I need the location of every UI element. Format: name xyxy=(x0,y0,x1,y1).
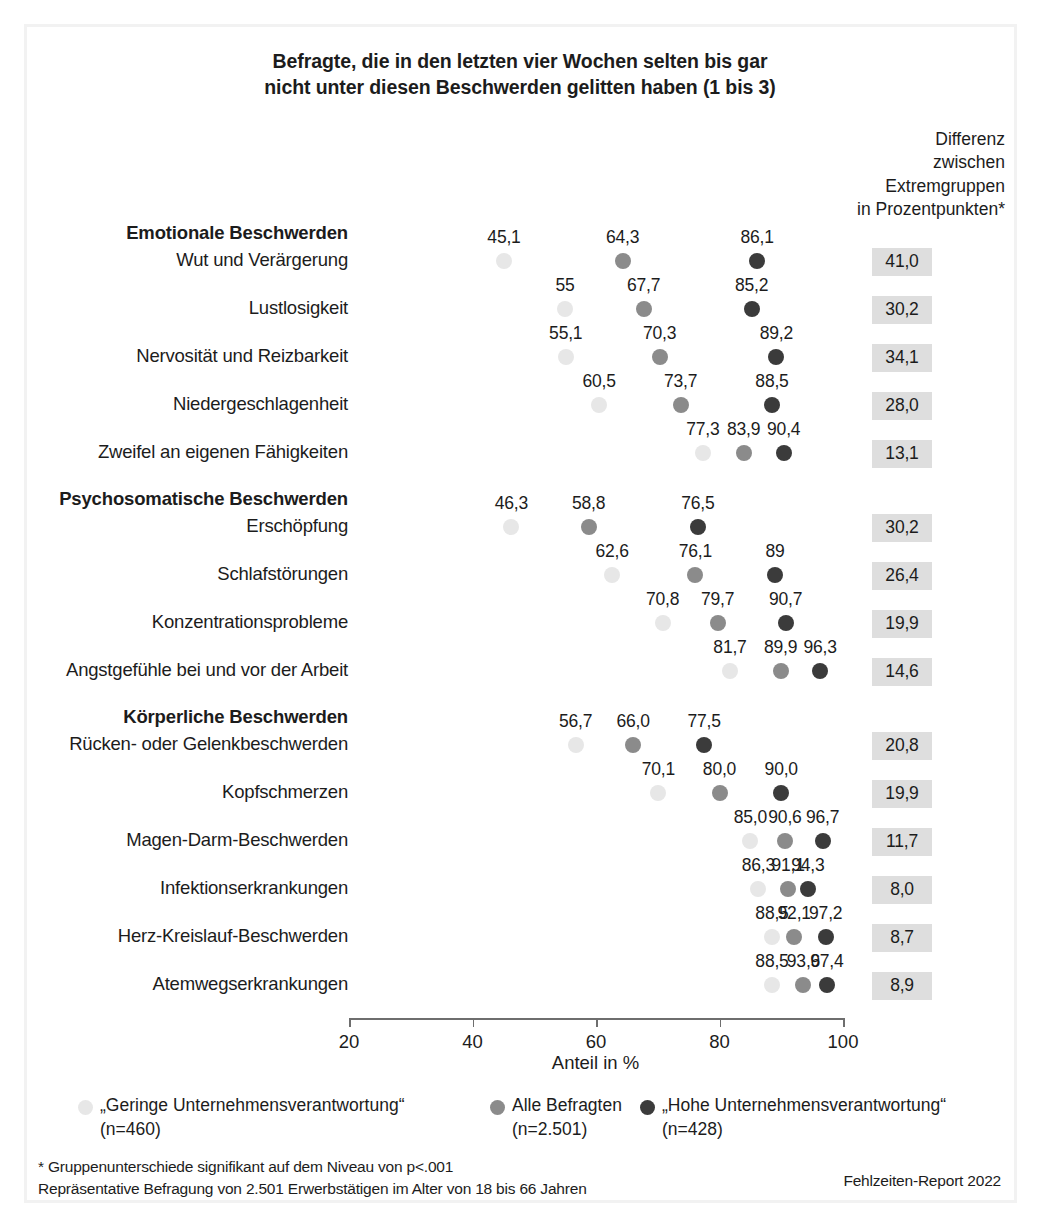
data-point-low xyxy=(604,567,620,583)
data-point-all xyxy=(673,397,689,413)
difference-badge: 14,6 xyxy=(872,658,932,686)
row-label: Zweifel an eigenen Fähigkeiten xyxy=(0,441,348,463)
x-axis-tick xyxy=(843,1018,845,1027)
figure-container: Befragte, die in den letzten vier Wochen… xyxy=(0,0,1041,1227)
data-value-all: 67,7 xyxy=(627,275,660,296)
data-value-high: 90,4 xyxy=(767,419,800,440)
data-point-all xyxy=(712,785,728,801)
data-value-low: 88,5 xyxy=(755,951,788,972)
data-point-low xyxy=(722,663,738,679)
data-point-all xyxy=(773,663,789,679)
data-point-high xyxy=(696,737,712,753)
row-label: Niedergeschlagenheit xyxy=(0,393,348,415)
data-point-low xyxy=(496,253,512,269)
difference-badge: 19,9 xyxy=(872,610,932,638)
difference-badge: 13,1 xyxy=(872,440,932,468)
legend-marker-low-icon xyxy=(78,1100,93,1115)
row-label: Erschöpfung xyxy=(0,515,348,537)
row-label: Herz-Kreislauf-Beschwerden xyxy=(0,925,348,947)
data-point-all xyxy=(687,567,703,583)
data-value-all: 89,9 xyxy=(764,637,797,658)
data-value-high: 90,7 xyxy=(769,589,802,610)
data-value-all: 70,3 xyxy=(643,323,676,344)
difference-badge: 19,9 xyxy=(872,780,932,808)
legend-item-low[interactable]: „Geringe Unternehmensverantwortung“(n=46… xyxy=(78,1094,404,1141)
data-point-all xyxy=(736,445,752,461)
difference-badge: 41,0 xyxy=(872,248,932,276)
data-point-all xyxy=(777,833,793,849)
data-point-low xyxy=(750,881,766,897)
data-value-low: 86,3 xyxy=(742,855,775,876)
data-value-high: 94,3 xyxy=(791,855,824,876)
data-value-all: 58,8 xyxy=(572,493,605,514)
data-point-all xyxy=(652,349,668,365)
difference-badge: 8,7 xyxy=(872,924,932,952)
data-value-all: 79,7 xyxy=(701,589,734,610)
data-point-high xyxy=(767,567,783,583)
data-point-all xyxy=(625,737,641,753)
data-value-high: 97,2 xyxy=(809,903,842,924)
legend-marker-all-icon xyxy=(490,1100,505,1115)
data-value-high: 76,5 xyxy=(681,493,714,514)
data-value-all: 83,9 xyxy=(727,419,760,440)
data-value-high: 96,7 xyxy=(806,807,839,828)
difference-badge: 28,0 xyxy=(872,392,932,420)
data-point-low xyxy=(591,397,607,413)
row-label: Angstgefühle bei und vor der Arbeit xyxy=(0,659,348,681)
data-value-low: 85,0 xyxy=(734,807,767,828)
data-value-low: 56,7 xyxy=(559,711,592,732)
x-axis-tick-label: 100 xyxy=(828,1031,859,1053)
data-point-high xyxy=(690,519,706,535)
data-value-low: 60,5 xyxy=(582,371,615,392)
data-point-all xyxy=(581,519,597,535)
source-label: Fehlzeiten-Report 2022 xyxy=(843,1172,1001,1190)
legend-item-high[interactable]: „Hohe Unternehmensverantwortung“(n=428) xyxy=(640,1094,946,1141)
data-point-high xyxy=(778,615,794,631)
data-value-low: 81,7 xyxy=(713,637,746,658)
x-axis-title: Anteil in % xyxy=(0,1052,1041,1074)
data-point-all xyxy=(780,881,796,897)
data-point-high xyxy=(768,349,784,365)
legend-item-all[interactable]: Alle Befragten(n=2.501) xyxy=(490,1094,622,1141)
legend-label: „Geringe Unternehmensverantwortung“ xyxy=(78,1094,404,1118)
data-value-low: 55 xyxy=(556,275,575,296)
row-label: Konzentrationsprobleme xyxy=(0,611,348,633)
data-value-low: 70,8 xyxy=(646,589,679,610)
data-point-low xyxy=(764,977,780,993)
x-axis-tick-label: 40 xyxy=(462,1031,483,1053)
data-point-low xyxy=(655,615,671,631)
row-label: Atemwegserkrankungen xyxy=(0,973,348,995)
data-point-high xyxy=(815,833,831,849)
data-point-low xyxy=(764,929,780,945)
data-value-high: 90,0 xyxy=(765,759,798,780)
row-label: Nervosität und Reizbarkeit xyxy=(0,345,348,367)
data-value-all: 64,3 xyxy=(606,227,639,248)
row-label: Lustlosigkeit xyxy=(0,297,348,319)
data-point-high xyxy=(800,881,816,897)
data-point-high xyxy=(818,929,834,945)
data-point-high xyxy=(773,785,789,801)
data-point-all xyxy=(636,301,652,317)
data-point-high xyxy=(776,445,792,461)
data-point-high xyxy=(764,397,780,413)
difference-badge: 8,0 xyxy=(872,876,932,904)
legend-label: Alle Befragten xyxy=(490,1094,622,1118)
row-label: Magen-Darm-Beschwerden xyxy=(0,829,348,851)
data-value-all: 73,7 xyxy=(664,371,697,392)
data-point-high xyxy=(749,253,765,269)
data-value-high: 77,5 xyxy=(687,711,720,732)
data-value-low: 55,1 xyxy=(549,323,582,344)
data-value-all: 66,0 xyxy=(616,711,649,732)
row-label: Rücken- oder Gelenkbeschwerden xyxy=(0,733,348,755)
x-axis-tick-label: 80 xyxy=(709,1031,730,1053)
difference-badge: 26,4 xyxy=(872,562,932,590)
group-heading: Körperliche Beschwerden xyxy=(0,706,348,728)
data-value-all: 80,0 xyxy=(703,759,736,780)
group-heading: Emotionale Beschwerden xyxy=(0,222,348,244)
data-value-high: 85,2 xyxy=(735,275,768,296)
difference-badge: 11,7 xyxy=(872,828,932,856)
x-axis-tick xyxy=(596,1018,598,1027)
plot-area: Emotionale BeschwerdenWut und Verärgerun… xyxy=(0,0,1041,1227)
legend-sample-size: (n=428) xyxy=(640,1118,946,1142)
row-label: Wut und Verärgerung xyxy=(0,249,348,271)
